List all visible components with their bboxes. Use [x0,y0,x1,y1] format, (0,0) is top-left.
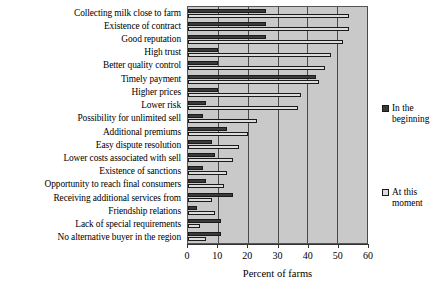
category-row: Opportunity to reach final consumers [0,178,185,191]
bar-in-the-beginning [188,140,212,144]
x-tick [308,244,309,248]
bar-group [188,138,367,151]
bar-at-this-moment [188,211,215,215]
bar-at-this-moment [188,237,206,241]
bar-at-this-moment [188,171,227,175]
bar-in-the-beginning [188,35,266,39]
category-row: Additional premiums [0,125,185,138]
category-axis: Collecting milk close to farmExistence o… [0,6,185,244]
bar-in-the-beginning [188,219,221,223]
bar-group [188,151,367,164]
bar-in-the-beginning [188,232,221,236]
bar-chart: Collecting milk close to farmExistence o… [0,0,447,292]
legend-swatch-icon [382,189,389,196]
bar-group [188,59,367,72]
bar-group [188,86,367,99]
category-row: Timely payment [0,72,185,85]
category-label: Friendship relations [108,206,181,216]
category-row: Lack of special requirements [0,218,185,231]
category-row: Lower costs associated with sell [0,151,185,164]
category-label: Good reputation [121,34,181,44]
category-row: Receiving additional services from [0,191,185,204]
category-label: Timely payment [121,74,181,84]
bar-group [188,20,367,33]
category-row: Better quality control [0,59,185,72]
bar-at-this-moment [188,224,200,228]
bar-at-this-moment [188,198,212,202]
bar-in-the-beginning [188,22,266,26]
x-axis-title: Percent of farms [187,268,368,279]
x-tick-label: 60 [363,250,373,261]
category-label: Existence of sanctions [99,166,181,176]
x-tick [247,244,248,248]
bar-group [188,112,367,125]
category-label: Better quality control [103,60,181,70]
bar-in-the-beginning [188,9,266,13]
bar-at-this-moment [188,27,349,31]
x-tick [368,244,369,248]
bar-in-the-beginning [188,179,206,183]
x-tick [338,244,339,248]
x-tick-label: 50 [333,250,343,261]
category-row: Existence of contract [0,19,185,32]
category-label: Possibility for unlimited sell [77,113,181,123]
category-row: Higher prices [0,85,185,98]
bar-group [188,73,367,86]
x-tick-label: 30 [273,250,283,261]
bar-at-this-moment [188,93,301,97]
gridline [367,7,368,243]
bar-at-this-moment [188,14,349,18]
x-tick-label: 10 [212,250,222,261]
x-tick-label: 0 [185,250,190,261]
category-row: Lower risk [0,99,185,112]
category-label: Collecting milk close to farm [74,8,181,18]
category-row: Existence of sanctions [0,165,185,178]
bar-at-this-moment [188,184,224,188]
x-tick-label: 40 [303,250,313,261]
bar-group [188,99,367,112]
bar-group [188,191,367,204]
category-label: Existence of contract [104,21,181,31]
bar-group [188,46,367,59]
category-label: Lack of special requirements [75,219,181,229]
x-tick [187,244,188,248]
bar-in-the-beginning [188,193,233,197]
bar-group [188,164,367,177]
bar-in-the-beginning [188,206,197,210]
category-label: Lower risk [141,100,181,110]
plot-area [187,6,368,244]
category-row: Good reputation [0,32,185,45]
bar-in-the-beginning [188,75,316,79]
bar-in-the-beginning [188,101,206,105]
category-label: No alternative buyer in the region [58,232,181,242]
category-label: Higher prices [132,87,181,97]
category-label: Lower costs associated with sell [63,153,181,163]
bar-at-this-moment [188,80,319,84]
bar-in-the-beginning [188,153,215,157]
bar-at-this-moment [188,158,233,162]
chart-legend: In the beginningAt this moment [382,103,446,271]
bar-group [188,7,367,20]
bar-in-the-beginning [188,61,218,65]
bar-group [188,125,367,138]
x-tick-label: 20 [242,250,252,261]
bar-group [188,177,367,190]
bar-at-this-moment [188,40,343,44]
category-label: Receiving additional services from [53,193,181,203]
bar-group [188,217,367,230]
category-label: Easy dispute resolution [96,140,181,150]
bars-layer [188,7,367,243]
bar-in-the-beginning [188,114,203,118]
bar-group [188,230,367,243]
bar-at-this-moment [188,66,325,70]
x-axis: 0102030405060 [187,244,368,245]
category-label: Additional premiums [103,127,181,137]
legend-entry: At this moment [382,187,446,209]
category-row: Friendship relations [0,204,185,217]
category-row: High trust [0,46,185,59]
legend-entry: In the beginning [382,103,446,125]
category-row: Collecting milk close to farm [0,6,185,19]
bar-in-the-beginning [188,127,227,131]
category-row: No alternative buyer in the region [0,231,185,244]
x-tick [217,244,218,248]
